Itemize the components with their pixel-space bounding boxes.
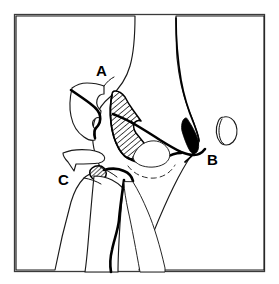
label-c: C	[58, 171, 69, 188]
figure-root: A B C	[0, 0, 279, 284]
anatomical-line-drawing: A B C	[0, 0, 279, 284]
label-a: A	[96, 62, 107, 79]
label-b: B	[207, 151, 218, 168]
